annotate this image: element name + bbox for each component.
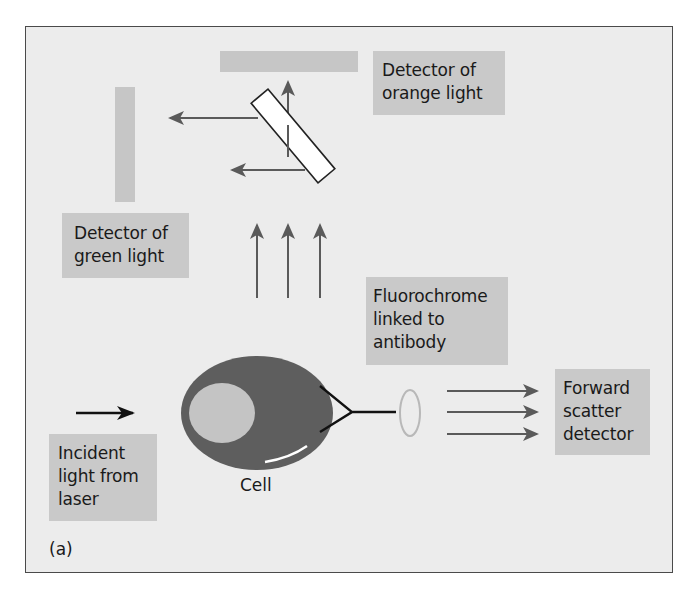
orange-detector-bar <box>220 51 358 72</box>
cell-nucleus <box>189 383 255 443</box>
panel-label: (a) <box>49 538 73 560</box>
incident-light-label: Incident light from laser <box>49 434 157 521</box>
fluorochrome-label: Fluorochrome linked to antibody <box>366 277 508 365</box>
dichroic-mirror <box>251 89 335 183</box>
forward-scatter-label: Forward scatter detector <box>555 369 650 455</box>
cell-label: Cell <box>240 474 272 496</box>
fluorochrome-icon <box>400 390 420 436</box>
green-detector-label: Detector of green light <box>62 213 189 278</box>
green-detector-bar <box>115 87 135 202</box>
orange-detector-label: Detector of orange light <box>373 51 505 115</box>
